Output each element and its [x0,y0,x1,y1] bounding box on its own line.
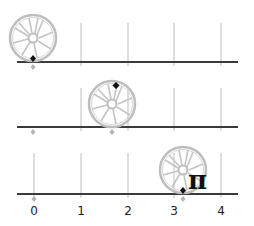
end-marker [181,196,186,202]
start-marker [32,196,37,202]
axis-labels: 0 1 2 3 4 [30,204,225,218]
tick-label-0: 0 [30,204,38,218]
pi-label: π [188,165,207,195]
tick-label-1: 1 [77,204,85,218]
grid-lines [81,23,221,66]
center-marker [110,129,115,135]
tick-label-2: 2 [124,204,132,218]
tick-label-4: 4 [217,204,225,218]
row-quarter-turn [17,81,238,135]
wheel-icon [10,15,56,61]
row-start [10,15,238,70]
start-marker [31,64,36,70]
rolling-wheel-diagram: π 0 1 2 3 4 [0,0,254,226]
start-marker [31,129,36,135]
tick-label-3: 3 [170,204,178,218]
row-half-turn: π [17,147,238,202]
